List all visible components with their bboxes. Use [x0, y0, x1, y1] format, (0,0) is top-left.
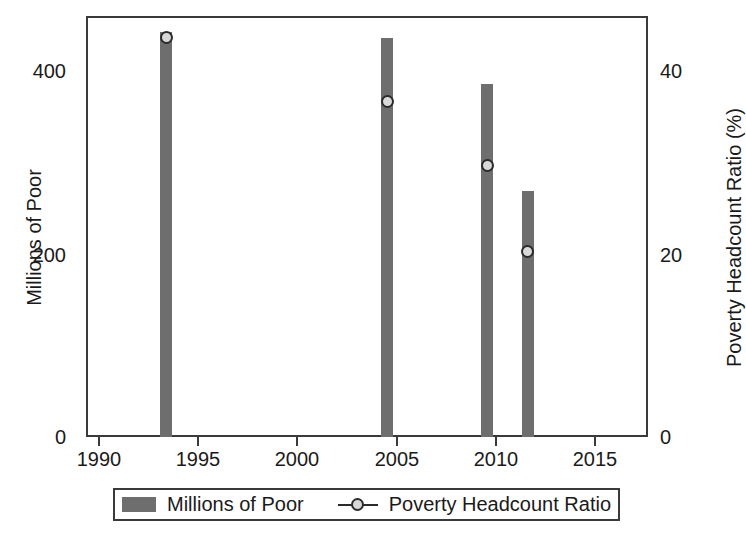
- x-axis-tick-2000: [296, 437, 298, 446]
- data-point-marker-2009: [481, 159, 494, 172]
- x-axis-tick-label-2015: 2015: [573, 448, 618, 471]
- data-point-marker-1993: [160, 31, 173, 44]
- x-axis-tick-2010: [495, 437, 497, 446]
- x-axis-tick-label-2005: 2005: [375, 448, 420, 471]
- x-axis-tick-2015: [594, 437, 596, 446]
- data-point-marker-2011: [521, 245, 534, 258]
- line-marker-swatch-icon: [338, 498, 378, 511]
- y-axis-right-title: Poverty Headcount Ratio (%): [723, 68, 746, 408]
- x-axis-tick-label-1990: 1990: [77, 448, 122, 471]
- y-axis-left-tick-label-0: 0: [55, 426, 66, 449]
- x-axis-tick-1990: [98, 437, 100, 446]
- y-axis-right-tick-label-0: 0: [660, 426, 671, 449]
- x-axis-tick-label-1995: 1995: [176, 448, 221, 471]
- bar-swatch-icon: [122, 497, 156, 512]
- x-axis-tick-label-2010: 2010: [474, 448, 519, 471]
- bar-2009: [481, 84, 493, 437]
- data-point-marker-2004: [381, 95, 394, 108]
- legend-label-poverty-headcount-ratio: Poverty Headcount Ratio: [389, 493, 611, 516]
- y-axis-left-tick-label-400: 400: [33, 60, 66, 83]
- y-axis-left-tick-label-200: 200: [33, 244, 66, 267]
- x-axis-tick-1995: [197, 437, 199, 446]
- plot-area: [86, 16, 648, 437]
- x-axis-tick-label-2000: 2000: [275, 448, 320, 471]
- legend-entry-millions-of-poor[interactable]: Millions of Poor: [122, 493, 304, 516]
- y-axis-right-tick-label-40: 40: [660, 60, 682, 83]
- legend-label-millions-of-poor: Millions of Poor: [167, 493, 304, 516]
- y-axis-right-tick-label-20: 20: [660, 244, 682, 267]
- circle-marker-icon: [351, 498, 364, 511]
- bar-2011: [522, 191, 534, 437]
- bar-1993: [160, 32, 172, 437]
- y-axis-left-title: Millions of Poor: [23, 118, 46, 358]
- x-axis-tick-2005: [396, 437, 398, 446]
- chart-legend: Millions of Poor Poverty Headcount Ratio: [113, 488, 620, 521]
- legend-entry-poverty-headcount-ratio[interactable]: Poverty Headcount Ratio: [338, 493, 611, 516]
